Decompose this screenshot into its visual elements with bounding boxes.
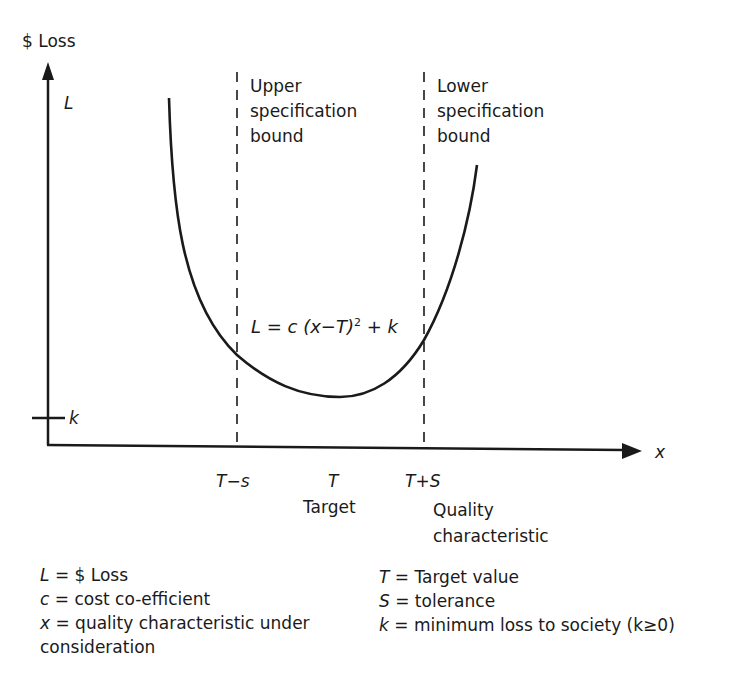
- legend-sym: T: [379, 567, 389, 587]
- legend-item-x-cont: consideration: [40, 635, 310, 659]
- y-axis-label: $ Loss: [22, 30, 76, 52]
- upper-bound-line1: Upper: [250, 74, 357, 99]
- legend-item-T: T = Target value: [379, 565, 675, 589]
- legend-item-x: x = quality characteristic under: [40, 611, 310, 635]
- legend-text: = minimum loss to society (k≥0): [389, 615, 675, 635]
- upper-spec-bound-label: Upper specification bound: [250, 74, 357, 149]
- legend-text: = Target value: [389, 567, 518, 587]
- x-axis-arrow-icon: [622, 443, 642, 459]
- x-axis: [47, 445, 624, 450]
- x-axis-label: Quality characteristic: [433, 497, 549, 549]
- legend-text: = tolerance: [390, 591, 495, 611]
- lower-spec-bound-label: Lower specification bound: [437, 74, 544, 149]
- legend-sym: c: [40, 589, 49, 609]
- legend-text: = quality characteristic under: [50, 613, 310, 633]
- legend-item-c: c = cost co-efficient: [40, 587, 310, 611]
- lower-bound-line3: bound: [437, 124, 544, 149]
- x-tick-target-label: Target: [303, 496, 356, 518]
- x-tick-t-minus-s: T−s: [216, 470, 250, 492]
- loss-formula: L = c (x−T)2 + k: [251, 312, 398, 338]
- formula-exponent: 2: [354, 316, 361, 329]
- x-axis-symbol: x: [655, 441, 665, 463]
- k-label: k: [69, 407, 79, 429]
- x-tick-t: T: [328, 470, 338, 492]
- legend-item-k: k = minimum loss to society (k≥0): [379, 613, 675, 637]
- upper-bound-line3: bound: [250, 124, 357, 149]
- x-axis-label-line2: characteristic: [433, 523, 549, 549]
- lower-bound-line2: specification: [437, 99, 544, 124]
- legend-text: = $ Loss: [49, 565, 128, 585]
- y-axis-arrow-icon: [42, 62, 54, 80]
- legend-item-S: S = tolerance: [379, 589, 675, 613]
- formula-tail: + k: [361, 316, 398, 337]
- x-tick-t-plus-s: T+S: [405, 470, 440, 492]
- x-axis-label-line1: Quality: [433, 497, 549, 523]
- lower-bound-line1: Lower: [437, 74, 544, 99]
- legend-text: consideration: [40, 637, 155, 657]
- legend-sym: S: [379, 591, 390, 611]
- legend-left: L = $ Loss c = cost co-efficient x = qua…: [40, 563, 310, 659]
- legend-right: T = Target value S = tolerance k = minim…: [379, 565, 675, 637]
- legend-item-L: L = $ Loss: [40, 563, 310, 587]
- legend-sym: k: [379, 615, 389, 635]
- legend-text: = cost co-efficient: [49, 589, 210, 609]
- upper-bound-line2: specification: [250, 99, 357, 124]
- formula-lhs: L: [251, 316, 261, 337]
- legend-sym: x: [40, 613, 50, 633]
- formula-body: = c (x−T): [261, 316, 354, 337]
- y-axis-symbol: L: [64, 92, 73, 114]
